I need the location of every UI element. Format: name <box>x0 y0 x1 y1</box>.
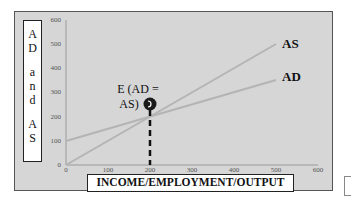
y-title-letter: A <box>28 27 37 41</box>
y-tick-labels: 0 100 200 300 400 500 600 <box>51 16 62 169</box>
svg-text:300: 300 <box>187 166 198 174</box>
svg-text:600: 600 <box>313 166 324 174</box>
svg-text:200: 200 <box>145 166 156 174</box>
y-title-letter: n <box>30 79 36 93</box>
svg-text:500: 500 <box>271 166 282 174</box>
equilibrium-marker <box>144 98 157 111</box>
x-axis-title: INCOME/EMPLOYMENT/OUTPUT <box>87 174 294 192</box>
ad-label: AD <box>282 69 301 84</box>
svg-text:500: 500 <box>51 40 62 48</box>
equilibrium-label-line1: E (AD = <box>117 82 159 96</box>
svg-text:400: 400 <box>51 64 62 72</box>
svg-text:100: 100 <box>103 166 114 174</box>
svg-text:0: 0 <box>64 166 68 174</box>
svg-text:0: 0 <box>58 161 62 169</box>
x-tick-labels: 0 100 200 300 400 500 600 <box>64 166 324 174</box>
y-title-letter: d <box>30 93 36 107</box>
y-title-letter: a <box>30 65 35 79</box>
ad-curve <box>66 80 276 141</box>
as-label: AS <box>282 36 299 51</box>
svg-text:600: 600 <box>51 16 62 24</box>
y-axis-title: A D a n d A S <box>23 20 42 162</box>
svg-text:100: 100 <box>51 137 62 145</box>
y-title-letter: S <box>29 131 36 145</box>
svg-text:200: 200 <box>51 113 62 121</box>
svg-text:400: 400 <box>229 166 240 174</box>
as-curve <box>66 44 276 165</box>
side-bracket-decoration <box>344 176 351 196</box>
svg-text:300: 300 <box>51 88 62 96</box>
y-title-letter: A <box>28 117 37 131</box>
equilibrium-label-line2: AS) <box>119 97 138 111</box>
y-title-letter: D <box>28 41 37 55</box>
